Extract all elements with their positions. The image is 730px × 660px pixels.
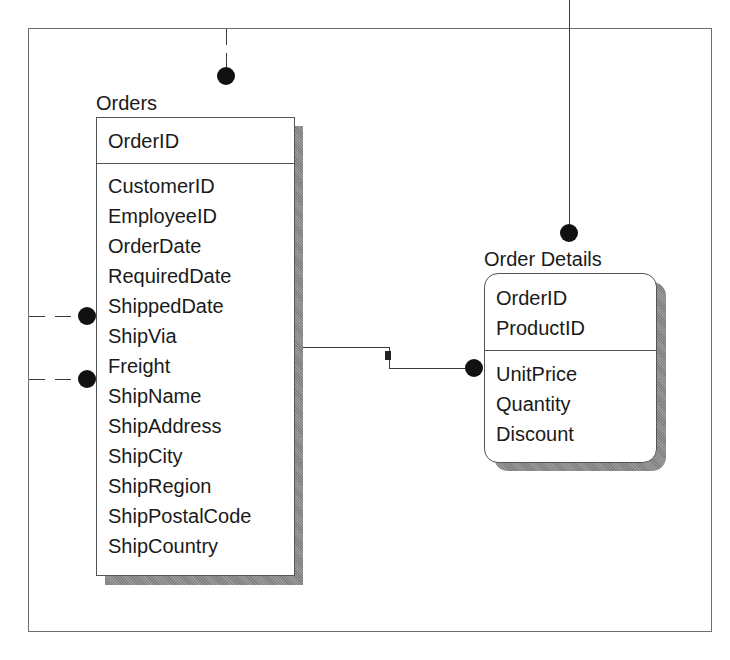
attribute-section: CustomerID EmployeeID OrderDate Required… [97,164,294,561]
relationship-line-top-orders[interactable] [226,29,227,69]
attribute-section: UnitPrice Quantity Discount [485,351,656,449]
primary-key-section: OrderID ProductID [485,274,656,351]
field-orderid[interactable]: OrderID [496,283,656,313]
primary-key-section: OrderID [97,118,294,164]
many-endpoint-dot-icon [217,67,235,85]
field-shipvia[interactable]: ShipVia [108,321,294,351]
relationship-line-left-orders-2[interactable] [29,379,81,380]
field-requireddate[interactable]: RequiredDate [108,261,294,291]
field-shipaddress[interactable]: ShipAddress [108,411,294,441]
many-endpoint-dot-icon [465,359,483,377]
entity-title-order-details: Order Details [484,248,602,270]
relationship-line-top-order-details[interactable] [569,0,570,226]
field-orderid[interactable]: OrderID [108,126,294,156]
field-shipcountry[interactable]: ShipCountry [108,531,294,561]
entity-title-orders: Orders [96,92,157,114]
field-freight[interactable]: Freight [108,351,294,381]
field-quantity[interactable]: Quantity [496,389,656,419]
relationship-line-orders-order-details[interactable] [303,347,390,348]
relationship-line-orders-order-details-end[interactable] [389,368,469,369]
many-endpoint-dot-icon [78,370,96,388]
field-employeeid[interactable]: EmployeeID [108,201,294,231]
field-shipregion[interactable]: ShipRegion [108,471,294,501]
entity-box-order-details[interactable]: OrderID ProductID UnitPrice Quantity Dis… [484,273,657,463]
relationship-line-left-orders-1[interactable] [29,316,81,317]
many-endpoint-dot-icon [560,224,578,242]
field-shipname[interactable]: ShipName [108,381,294,411]
field-productid[interactable]: ProductID [496,313,656,343]
field-customerid[interactable]: CustomerID [108,171,294,201]
entity-box-orders[interactable]: OrderID CustomerID EmployeeID OrderDate … [96,117,295,576]
field-unitprice[interactable]: UnitPrice [496,359,656,389]
many-endpoint-dot-icon [78,307,96,325]
field-orderdate[interactable]: OrderDate [108,231,294,261]
relationship-handle-icon[interactable] [384,351,391,360]
field-discount[interactable]: Discount [496,419,656,449]
field-shippeddate[interactable]: ShippedDate [108,291,294,321]
field-shippostalcode[interactable]: ShipPostalCode [108,501,294,531]
field-shipcity[interactable]: ShipCity [108,441,294,471]
